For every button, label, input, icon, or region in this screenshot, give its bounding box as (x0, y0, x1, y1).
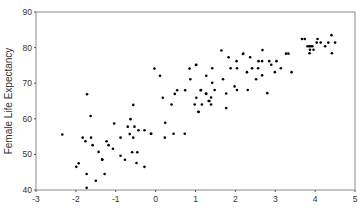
data-point (308, 52, 311, 55)
data-point (131, 151, 134, 154)
data-point (210, 96, 213, 99)
data-point (163, 136, 166, 139)
data-point (132, 104, 135, 107)
y-tick-label: 70 (23, 78, 33, 88)
scatter-chart: 405060708090 -3-2-1012345 Female Life Ex… (0, 0, 360, 220)
data-point (143, 129, 146, 132)
data-point (249, 56, 252, 59)
data-point (331, 52, 334, 55)
y-tick-label: 60 (23, 114, 33, 124)
y-axis: 405060708090 (23, 7, 36, 195)
data-point (268, 60, 271, 63)
y-tick-label: 80 (23, 43, 33, 53)
data-point (270, 63, 273, 66)
y-tick-label: 90 (23, 7, 33, 17)
data-point (261, 60, 264, 63)
data-point (235, 60, 238, 63)
data-point (330, 34, 333, 37)
y-axis-title: Female Life Expectancy (3, 48, 14, 155)
data-point (205, 74, 208, 77)
x-tick-label: 0 (153, 194, 158, 204)
data-point (222, 78, 225, 81)
data-point (150, 132, 153, 135)
data-point (255, 78, 258, 81)
data-point (275, 60, 278, 63)
data-point (137, 129, 140, 132)
data-point (105, 140, 108, 143)
data-point (225, 92, 228, 95)
y-tick-label: 40 (23, 185, 33, 195)
data-point (170, 103, 173, 106)
data-point (136, 151, 139, 154)
data-point (164, 121, 167, 124)
data-point (211, 82, 214, 85)
data-point (309, 48, 312, 51)
data-point (195, 96, 198, 99)
data-point (257, 67, 260, 70)
data-point (208, 100, 211, 103)
data-point (172, 132, 175, 135)
data-point (173, 93, 176, 96)
data-point (266, 92, 269, 95)
data-point (103, 173, 106, 176)
data-point (183, 132, 186, 135)
data-point (85, 173, 88, 176)
data-point (119, 136, 122, 139)
data-point (91, 144, 94, 147)
data-point (133, 125, 136, 128)
data-point (143, 166, 146, 169)
x-tick-label: 2 (233, 194, 238, 204)
data-point (324, 45, 327, 48)
data-point (113, 122, 116, 125)
plot-frame (36, 12, 355, 190)
data-point (257, 60, 260, 63)
data-point (210, 103, 213, 106)
data-point (211, 67, 214, 70)
data-point (61, 133, 64, 136)
x-tick-label: 4 (313, 194, 318, 204)
data-point (236, 67, 239, 70)
data-point (86, 93, 89, 96)
data-point (303, 38, 306, 41)
data-point (205, 92, 208, 95)
data-point (176, 89, 179, 92)
data-point (274, 71, 277, 74)
x-tick-label: -2 (72, 194, 80, 204)
data-point (213, 89, 216, 92)
x-tick-label: 5 (353, 194, 358, 204)
data-point (195, 63, 198, 66)
data-point (316, 38, 319, 41)
data-point (201, 103, 204, 106)
data-point (287, 52, 290, 55)
data-point (242, 52, 245, 55)
data-point (119, 155, 122, 158)
data-point (251, 67, 254, 70)
data-point (261, 74, 264, 77)
data-point (129, 118, 132, 121)
data-point (89, 115, 92, 118)
data-point (188, 67, 191, 70)
data-point (290, 71, 293, 74)
data-point (193, 103, 196, 106)
data-point (189, 78, 192, 81)
data-point (124, 158, 127, 161)
data-point (197, 110, 200, 113)
data-point (132, 136, 135, 139)
data-point (153, 67, 156, 70)
data-point (229, 67, 232, 70)
data-point (107, 144, 110, 147)
data-point (184, 89, 187, 92)
data-point (77, 162, 80, 165)
data-point (220, 49, 223, 52)
x-tick-label: -1 (112, 194, 120, 204)
data-point (225, 107, 228, 110)
data-point (128, 133, 131, 136)
data-point (75, 166, 78, 169)
data-point (95, 179, 98, 182)
data-point (312, 48, 315, 51)
data-point (315, 41, 318, 44)
y-tick-label: 50 (23, 149, 33, 159)
data-point (84, 140, 87, 143)
data-point (200, 89, 203, 92)
data-points (61, 34, 336, 189)
